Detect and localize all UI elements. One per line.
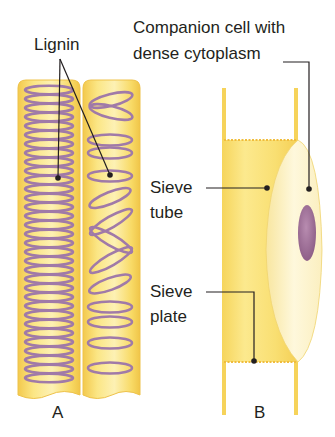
panel-label-b: B <box>254 403 265 422</box>
cell-wall-upper-left <box>222 88 226 140</box>
pointer-dot-companion <box>306 186 312 192</box>
pointer-dot-lignin-b <box>107 172 113 178</box>
xylem-phloem-diagram: Lignin Companion cell with dense cytopla… <box>0 0 335 437</box>
pointer-dot-lignin-a <box>55 175 61 181</box>
phloem-sieve-element <box>222 88 322 415</box>
panel-label-a: A <box>52 403 64 422</box>
label-lignin: Lignin <box>34 35 79 54</box>
label-sieve-tube-line1: Sieve <box>150 178 193 197</box>
label-companion-line1: Companion cell with <box>133 18 285 37</box>
label-sieve-plate-line1: Sieve <box>150 282 193 301</box>
label-companion-line2: dense cytoplasm <box>133 44 261 63</box>
pointer-dot-sieve-plate <box>251 358 257 364</box>
pointer-dot-sieve-tube <box>264 185 270 191</box>
cell-wall-lower-left <box>222 360 226 415</box>
label-sieve-tube-line2: tube <box>150 203 183 222</box>
cell-wall-lower-right <box>294 360 298 415</box>
xylem-vessel-annular <box>18 80 80 399</box>
label-sieve-plate-line2: plate <box>150 307 187 326</box>
companion-cell-nucleus <box>298 205 316 261</box>
cell-wall-upper-right <box>294 88 298 140</box>
xylem-vessel-spiral <box>83 80 140 399</box>
